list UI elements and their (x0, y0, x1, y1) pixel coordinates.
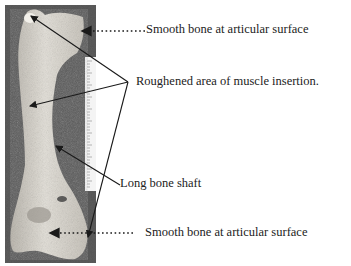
label-bottom-articular-surface: Smooth bone at articular surface (145, 225, 307, 240)
insertion-arrow-bottom (88, 82, 128, 237)
label-long-bone-shaft: Long bone shaft (120, 176, 201, 191)
insertion-arrow-top (31, 16, 128, 82)
label-muscle-insertion: Roughened area of muscle insertion. (136, 74, 319, 89)
label-top-articular-surface: Smooth bone at articular surface (146, 22, 308, 37)
insertion-arrow-mid (30, 82, 128, 106)
